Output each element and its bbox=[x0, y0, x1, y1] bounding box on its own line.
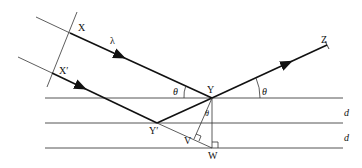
ray-extension-upper bbox=[36, 17, 70, 33]
label-v: V bbox=[184, 135, 192, 146]
label-w: W bbox=[208, 150, 218, 161]
label-x-prime: X′ bbox=[59, 65, 68, 76]
label-y-prime: Y′ bbox=[149, 125, 158, 136]
label-lambda: λ bbox=[110, 35, 115, 46]
ray-extension-lower bbox=[18, 57, 52, 73]
right-angle-marker-v bbox=[196, 134, 201, 141]
arrow-icon bbox=[115, 54, 120, 56]
label-d2: d bbox=[344, 132, 350, 143]
label-y: Y bbox=[207, 84, 214, 95]
arrow-icon bbox=[282, 63, 287, 65]
label-theta-right: θ bbox=[262, 86, 267, 97]
reflected-ray-upper bbox=[212, 45, 327, 98]
angle-arc-left bbox=[184, 86, 186, 98]
bragg-diagram: X X′ λ Y Y′ Z V W θ θ θ d d bbox=[0, 0, 362, 168]
label-x: X bbox=[78, 22, 86, 33]
label-theta-inner: θ bbox=[205, 109, 209, 118]
label-theta-left: θ bbox=[173, 86, 178, 97]
label-d1: d bbox=[344, 107, 350, 118]
arrow-icon bbox=[76, 84, 81, 86]
label-z: Z bbox=[321, 34, 327, 45]
reflected-ray-lower bbox=[157, 98, 212, 123]
incident-ray-upper bbox=[70, 33, 212, 98]
right-angle-marker-w bbox=[212, 142, 218, 148]
angle-arc-right bbox=[256, 78, 260, 98]
